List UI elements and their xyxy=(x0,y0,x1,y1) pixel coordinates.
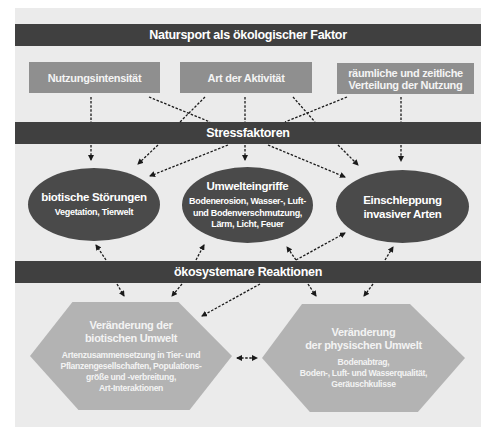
connector-arrows xyxy=(0,0,495,438)
